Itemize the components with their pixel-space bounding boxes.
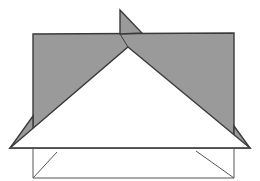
geometry-canvas [0,0,260,181]
figure-root [0,0,260,181]
